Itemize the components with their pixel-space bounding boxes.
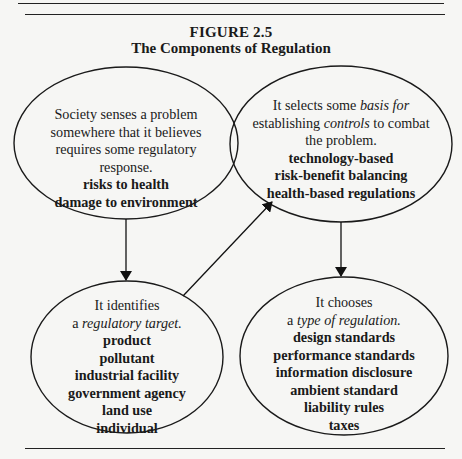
type-line-2-text: a bbox=[287, 312, 297, 328]
type-item: performance standards bbox=[244, 347, 444, 365]
arrow-target-to-basis bbox=[183, 202, 272, 296]
type-item: liability rules bbox=[244, 399, 444, 417]
target-line-1: It identifies bbox=[37, 297, 217, 315]
basis-line-1-emphasis: basis for bbox=[360, 97, 409, 113]
basis-line-3: the problem. bbox=[236, 132, 446, 150]
target-line-2-text: a bbox=[72, 315, 82, 331]
type-item: information disclosure bbox=[244, 364, 444, 382]
problem-item: risks to health bbox=[26, 176, 226, 194]
type-line-2: a type of regulation. bbox=[244, 312, 444, 330]
type-item: taxes bbox=[244, 417, 444, 435]
type-line-1: It chooses bbox=[244, 294, 444, 312]
node-basis: It selects some basis for establishing c… bbox=[236, 97, 446, 202]
basis-line-2-text: establishing bbox=[252, 115, 323, 131]
basis-line-2-tail: to combat bbox=[370, 115, 430, 131]
target-item: government agency bbox=[37, 385, 217, 403]
target-item: land use bbox=[37, 402, 217, 420]
basis-line-2-emphasis: controls bbox=[324, 115, 370, 131]
target-item: product bbox=[37, 332, 217, 350]
basis-item: health-based regulations bbox=[236, 185, 446, 203]
node-target: It identifies a regulatory target. produ… bbox=[37, 297, 217, 437]
target-item: industrial facility bbox=[37, 367, 217, 385]
bottom-rule bbox=[25, 448, 445, 449]
basis-line-1: It selects some basis for bbox=[236, 97, 446, 115]
target-item: pollutant bbox=[37, 350, 217, 368]
problem-line-1: Society senses a problem bbox=[26, 106, 226, 124]
node-type: It chooses a type of regulation. design … bbox=[244, 294, 444, 434]
problem-line-3: requires some regulatory bbox=[26, 141, 226, 159]
type-item: design standards bbox=[244, 329, 444, 347]
basis-item: technology-based bbox=[236, 150, 446, 168]
type-line-2-emphasis: type of regulation. bbox=[297, 312, 401, 328]
target-item: individual bbox=[37, 420, 217, 438]
problem-line-4: response. bbox=[26, 159, 226, 177]
problem-line-2: somewhere that it believes bbox=[26, 124, 226, 142]
node-problem: Society senses a problem somewhere that … bbox=[26, 106, 226, 211]
problem-item: damage to environment bbox=[26, 194, 226, 212]
basis-line-2: establishing controls to combat bbox=[236, 115, 446, 133]
type-item: ambient standard bbox=[244, 382, 444, 400]
basis-item: risk-benefit balancing bbox=[236, 167, 446, 185]
target-line-2-emphasis: regulatory target. bbox=[82, 315, 182, 331]
target-line-2: a regulatory target. bbox=[37, 315, 217, 333]
basis-line-1-text: It selects some bbox=[273, 97, 360, 113]
